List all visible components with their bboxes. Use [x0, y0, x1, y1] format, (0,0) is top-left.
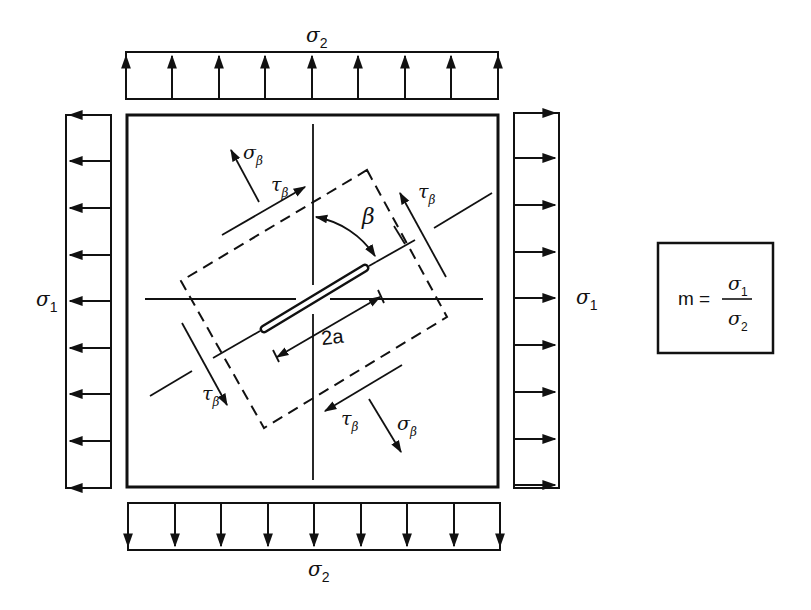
formula-numerator: σ1 — [728, 272, 748, 299]
left-load-bar — [66, 115, 111, 488]
tau-beta-upper-left-label: τβ — [271, 173, 289, 200]
crack-diagram: σ2 σ2 σ1 — [0, 0, 811, 610]
sigma-left-label: σ1 — [36, 287, 58, 315]
formula-denominator: σ2 — [728, 307, 748, 334]
crack-length-label: 2a — [320, 325, 345, 349]
bottom-load-bar — [128, 503, 500, 550]
angle-beta-label: β — [361, 204, 375, 229]
formula-lhs: m = — [678, 288, 710, 309]
sigma-right-label: σ1 — [576, 285, 598, 313]
sigma-top-label: σ2 — [306, 23, 328, 51]
sigma-bottom-label: σ2 — [308, 557, 330, 585]
ratio-formula-box: m = σ1 σ2 — [658, 243, 773, 353]
top-load-bar — [126, 52, 498, 99]
sigma-beta-upper-label: σβ — [243, 141, 263, 168]
tau-beta-lower-right-label: τβ — [341, 407, 359, 434]
tau-beta-upper-right-label: τβ — [418, 180, 436, 207]
right-load-bar — [514, 113, 559, 488]
sigma-beta-lower-label: σβ — [397, 412, 417, 439]
